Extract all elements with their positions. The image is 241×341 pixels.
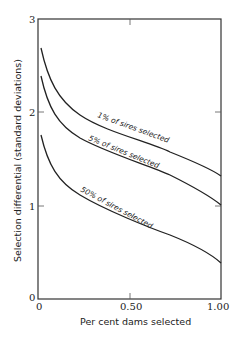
curve-label-5pct: 5% of sires selected	[87, 134, 161, 171]
y-axis-label: Selection differential (standard deviati…	[12, 59, 23, 262]
y-tick-2: 2	[29, 107, 35, 118]
y-tick-3: 3	[29, 14, 35, 25]
y-tick-0: 0	[29, 292, 35, 303]
x-axis-label: Per cent dams selected	[80, 316, 191, 327]
x-tick-100: 1.00	[207, 301, 229, 312]
chart: 3 2 1 0 0 0.50 1.00 Per cent dams select…	[0, 0, 241, 341]
curve-label-50pct: 50% of sires selected	[79, 185, 154, 231]
x-tick-0: 0	[36, 301, 42, 312]
x-tick-050: 0.50	[120, 301, 142, 312]
y-tick-1: 1	[29, 201, 35, 212]
